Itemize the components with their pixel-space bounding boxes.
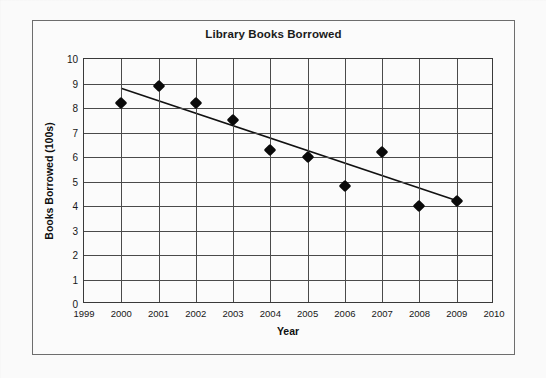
gridline-horizontal: [84, 157, 492, 158]
y-axis-title-label: Books Borrowed (100s): [43, 122, 55, 239]
x-tick-label: 2003: [223, 308, 244, 319]
x-tick-label: 2008: [409, 308, 430, 319]
gridline-horizontal: [84, 206, 492, 207]
x-tick-label: 2010: [483, 308, 504, 319]
y-tick-label: 2: [72, 250, 78, 261]
y-tick-label: 7: [72, 127, 78, 138]
trendline: [84, 59, 492, 302]
gridline-horizontal: [84, 255, 492, 256]
data-point-marker: [264, 143, 277, 156]
gridline-vertical: [382, 59, 383, 302]
gridline-horizontal: [84, 182, 492, 183]
y-tick-label: 10: [67, 54, 78, 65]
x-tick-label: 2007: [372, 308, 393, 319]
y-tick-label: 6: [72, 152, 78, 163]
x-tick-label: 2001: [148, 308, 169, 319]
gridline-vertical: [308, 59, 309, 302]
y-tick-label: 3: [72, 225, 78, 236]
x-tick-label: 2004: [260, 308, 281, 319]
gridline-vertical: [419, 59, 420, 302]
y-axis-title: Books Borrowed (100s): [41, 58, 57, 303]
data-point-marker: [301, 151, 314, 164]
gridline-horizontal: [84, 108, 492, 109]
gridline-horizontal: [84, 231, 492, 232]
x-tick-label: 2006: [334, 308, 355, 319]
gridline-horizontal: [84, 84, 492, 85]
y-tick-label: 8: [72, 103, 78, 114]
x-axis-title: Year: [83, 325, 493, 337]
gridline-vertical: [457, 59, 458, 302]
y-tick-label: 5: [72, 176, 78, 187]
y-tick-label: 9: [72, 78, 78, 89]
y-tick-label: 4: [72, 201, 78, 212]
x-tick-label: 2009: [446, 308, 467, 319]
chart-frame: Library Books Borrowed Books Borrowed (1…: [32, 20, 515, 355]
page-background: Library Books Borrowed Books Borrowed (1…: [0, 0, 546, 378]
gridline-vertical: [233, 59, 234, 302]
gridline-vertical: [121, 59, 122, 302]
x-tick-label: 2002: [185, 308, 206, 319]
gridline-vertical: [196, 59, 197, 302]
plot-area: 0123456789101999200020012002200320042005…: [83, 58, 493, 303]
gridline-horizontal: [84, 133, 492, 134]
x-tick-label: 1999: [73, 308, 94, 319]
data-point-marker: [152, 80, 165, 93]
gridline-vertical: [159, 59, 160, 302]
gridline-horizontal: [84, 280, 492, 281]
x-tick-label: 2000: [111, 308, 132, 319]
data-point-marker: [413, 200, 426, 213]
y-tick-label: 1: [72, 274, 78, 285]
chart-title: Library Books Borrowed: [33, 28, 514, 40]
x-tick-label: 2005: [297, 308, 318, 319]
gridline-vertical: [270, 59, 271, 302]
data-point-marker: [227, 114, 240, 127]
